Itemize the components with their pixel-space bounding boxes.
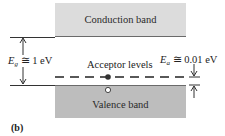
band-gap-subscript: g	[14, 60, 18, 68]
acceptor-energy-arrows	[189, 64, 200, 98]
acceptor-energy-value: ≅ 0.01 eV	[173, 54, 218, 65]
band-gap-value: ≅ 1 eV	[21, 55, 53, 66]
acceptor-energy-subscript: a	[166, 59, 170, 67]
band-gap-label: Eg ≅ 1 eV	[8, 54, 52, 68]
hole-circle	[105, 87, 110, 92]
panel-label: (b)	[11, 122, 23, 133]
acceptor-levels-label: Acceptor levels	[87, 59, 153, 70]
electron-dot	[105, 74, 111, 80]
acceptor-energy-label: Ea ≅ 0.01 eV	[160, 53, 217, 67]
